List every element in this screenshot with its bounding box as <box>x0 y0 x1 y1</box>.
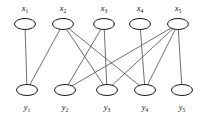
graph-node-label-x2: x2 <box>59 3 67 14</box>
graph-node-y4 <box>135 85 156 96</box>
graph-node-label-y1: y1 <box>23 102 31 113</box>
graph-edge-x2-y1 <box>30 29 60 84</box>
graph-edge-x5-y5 <box>178 30 181 85</box>
graph-edge-x3-y2 <box>68 29 101 85</box>
graph-edge-x5-y4 <box>148 29 176 84</box>
graph-canvas: x1x2x3x4x5y1y2y3y4y5 <box>0 0 203 115</box>
graph-node-label-y4: y4 <box>141 102 149 113</box>
graph-node-label-x1: x1 <box>21 3 29 14</box>
graph-node-y5 <box>172 85 193 96</box>
graph-node-y1 <box>17 85 38 96</box>
graph-node-x1 <box>15 19 36 30</box>
graph-node-y3 <box>97 85 118 96</box>
graph-node-label-x3: x3 <box>100 3 108 14</box>
bipartite-graph-figure: x1x2x3x4x5y1y2y3y4y5 <box>0 0 203 115</box>
graph-node-x2 <box>53 19 74 30</box>
graph-edge-x2-y3 <box>66 29 103 85</box>
graph-edge-x1-y1 <box>25 30 27 85</box>
graph-node-x3 <box>94 19 115 30</box>
graph-node-label-x5: x5 <box>174 3 182 14</box>
graph-node-x5 <box>168 19 189 30</box>
graph-node-label-y3: y3 <box>103 102 111 113</box>
graph-node-label-y5: y5 <box>178 102 186 113</box>
graph-node-x4 <box>130 19 151 30</box>
edge-layer <box>25 28 182 86</box>
graph-edge-x5-y2 <box>72 28 171 86</box>
graph-node-label-y2: y2 <box>61 102 69 113</box>
graph-node-y2 <box>55 85 76 96</box>
graph-edge-x2-y4 <box>69 29 140 86</box>
graph-node-label-x4: x4 <box>136 3 144 14</box>
